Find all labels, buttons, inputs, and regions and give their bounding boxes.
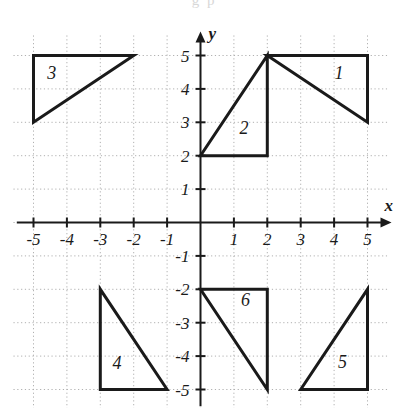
x-axis-label: x (384, 196, 394, 215)
y-tick-label: -4 (175, 347, 190, 366)
triangle-4-label: 4 (113, 353, 122, 373)
y-axis-label: y (207, 24, 217, 43)
y-tick-label: 5 (181, 47, 190, 66)
triangle-1-label: 1 (335, 63, 344, 83)
y-tick-label: 1 (181, 180, 190, 199)
x-tick-label: 3 (295, 230, 305, 249)
triangle-2-label: 2 (239, 118, 248, 138)
y-tick-label: 3 (180, 113, 190, 132)
x-tick-label: -2 (127, 230, 142, 249)
x-tick-label: -3 (93, 230, 107, 249)
x-tick-label: 1 (230, 230, 239, 249)
triangle-5-label: 5 (338, 352, 347, 372)
x-tick-label: -5 (26, 230, 40, 249)
x-tick-label: 5 (363, 230, 372, 249)
axis-layer (17, 31, 392, 406)
x-tick-label: -4 (60, 230, 75, 249)
y-tick-label: -3 (175, 314, 189, 333)
coordinate-plane-svg: -5-4-3-2-11234554321-1-2-3-4-5 123456 xy (0, 0, 408, 408)
triangle-6-label: 6 (241, 290, 250, 310)
y-tick-label: -2 (175, 280, 190, 299)
y-tick-label: -1 (175, 247, 189, 266)
coordinate-plane-figure: g p -5-4-3-2-11234554321-1-2-3-4-5 12345… (0, 0, 408, 408)
triangle-labels-layer: 123456 (46, 63, 347, 374)
x-axis-arrowhead (381, 218, 392, 228)
y-tick-label: 4 (181, 80, 190, 99)
x-tick-label: 2 (263, 230, 272, 249)
y-tick-label: 2 (181, 147, 190, 166)
x-tick-label: 4 (330, 230, 339, 249)
y-tick-label: -5 (175, 381, 189, 400)
triangle-3-label: 3 (46, 63, 56, 83)
y-axis-arrowhead (196, 31, 206, 42)
x-tick-label: -1 (160, 230, 174, 249)
